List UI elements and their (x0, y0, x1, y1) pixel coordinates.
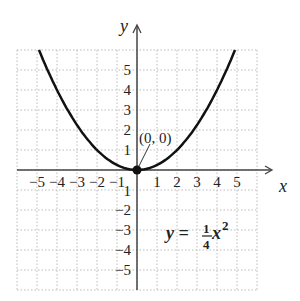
svg-text:x: x (211, 223, 221, 243)
svg-text:4: 4 (213, 174, 221, 190)
svg-text:4: 4 (124, 82, 132, 98)
svg-text:3: 3 (193, 174, 201, 190)
svg-text:−2: −2 (115, 202, 131, 218)
svg-text:2: 2 (124, 122, 132, 138)
equation-label: y = 1 4 x 2 (164, 218, 229, 252)
svg-text:4: 4 (203, 237, 210, 252)
svg-text:1: 1 (203, 221, 210, 236)
svg-text:−3: −3 (69, 174, 85, 190)
svg-text:−5: −5 (29, 174, 45, 190)
x-axis-label: x (278, 176, 287, 196)
svg-text:1: 1 (153, 174, 161, 190)
svg-text:−3: −3 (115, 222, 131, 238)
svg-text:1: 1 (124, 142, 132, 158)
origin-label: (0, 0) (139, 130, 172, 147)
svg-text:−4: −4 (115, 242, 131, 258)
svg-text:2: 2 (173, 174, 181, 190)
svg-text:2: 2 (222, 218, 229, 233)
origin-point (133, 166, 142, 175)
svg-text:5: 5 (233, 174, 241, 190)
y-axis-label: y (118, 16, 128, 36)
svg-text:5: 5 (124, 62, 132, 78)
svg-text:3: 3 (124, 102, 132, 118)
svg-text:1: 1 (124, 183, 132, 199)
svg-text:−5: −5 (115, 262, 131, 278)
svg-text:−2: −2 (89, 174, 105, 190)
parabola-plot: −5−4−3−2−11234554321−2−3−4−51 (0, 0) x y… (0, 0, 300, 301)
svg-text:y =: y = (164, 223, 189, 243)
svg-text:−4: −4 (49, 174, 65, 190)
